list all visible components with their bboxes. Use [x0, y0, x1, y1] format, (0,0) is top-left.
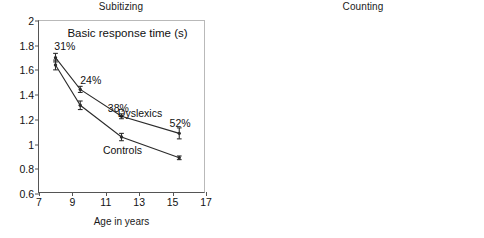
figure-root: Subitizing 0.60.811.21.41.61.82791113151…	[0, 0, 484, 238]
ytick-label: 2	[28, 15, 34, 27]
ytick-label: 1.6	[19, 64, 34, 76]
series-label: Controls	[103, 144, 142, 156]
axes-subitizing: 0.60.811.21.41.61.827911131517Basic resp…	[39, 21, 204, 192]
xtick-label: 9	[69, 196, 75, 208]
percent-annotation: 24%	[80, 74, 101, 86]
inner-title-subitizing: Basic response time (s)	[67, 27, 187, 39]
ytick-label: 1.4	[19, 89, 34, 101]
ytick-label: 0.8	[19, 163, 34, 175]
xtick-label: 15	[167, 196, 179, 208]
percent-annotation: 52%	[170, 117, 191, 129]
ytick-mark	[35, 70, 39, 71]
ytick-label: 1.8	[19, 40, 34, 52]
panel-title-subitizing: Subitizing	[0, 1, 242, 12]
data-point	[79, 104, 82, 107]
ytick-mark	[35, 169, 39, 170]
xtick-label: 11	[100, 196, 111, 208]
ytick-label: 1	[28, 139, 34, 151]
ytick-label: 0.6	[19, 188, 34, 200]
panel-counting: Counting 0.60.91.21.51.82.12.42.733.3791…	[242, 0, 484, 238]
percent-annotation: 31%	[54, 40, 75, 52]
ytick-mark	[35, 119, 39, 120]
ytick-label: 1.2	[19, 114, 34, 126]
xtick-label: 17	[200, 196, 212, 208]
data-point	[178, 132, 181, 135]
xtick-label: 13	[133, 196, 145, 208]
xtick-label: 7	[36, 196, 42, 208]
data-point	[120, 135, 123, 138]
data-point	[79, 88, 82, 91]
data-point	[178, 156, 181, 159]
data-point	[54, 63, 57, 66]
ytick-mark	[35, 95, 39, 96]
ytick-mark	[35, 21, 39, 22]
panel-title-counting: Counting	[242, 1, 484, 12]
ytick-mark	[35, 144, 39, 145]
xaxis-title-subitizing: Age in years	[38, 216, 205, 227]
data-point	[54, 56, 57, 59]
ytick-mark	[35, 45, 39, 46]
plot-area-subitizing: 0.60.811.21.41.61.827911131517Basic resp…	[38, 20, 205, 193]
percent-annotation: 38%	[108, 102, 129, 114]
panel-subitizing: Subitizing 0.60.811.21.41.61.82791113151…	[0, 0, 242, 238]
